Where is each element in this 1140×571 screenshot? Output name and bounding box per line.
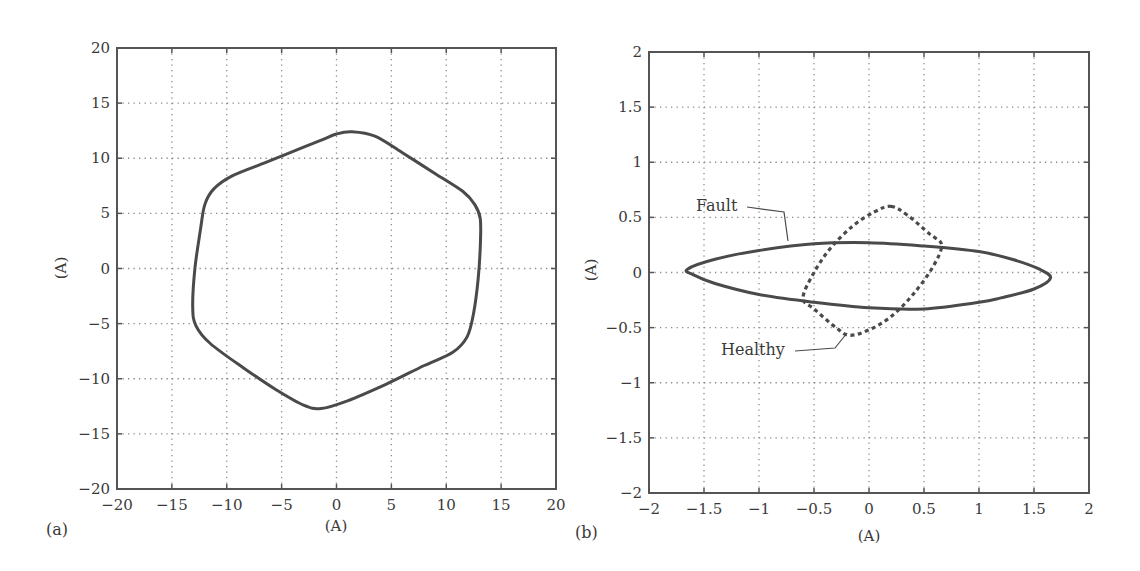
- y-tick-label: 2: [632, 43, 642, 61]
- series-fault: [686, 243, 1050, 310]
- panel-a-ytick-labels: −20−15−10−505101520: [78, 39, 110, 498]
- x-tick-label: 0: [864, 500, 874, 518]
- x-tick-label: −0.5: [796, 500, 832, 518]
- panel-b-xtick-labels: −2−1.5−1−0.500.511.52: [638, 500, 1094, 518]
- x-tick-label: 15: [492, 496, 511, 514]
- panel-a-ylabel: (A): [52, 257, 70, 280]
- y-tick-label: 1: [632, 153, 642, 171]
- y-tick-label: −0.5: [606, 319, 642, 337]
- healthy-annotation-label: Healthy: [721, 340, 785, 359]
- fault-annotation-label: Fault: [696, 196, 738, 215]
- panel-a-xtick-labels: −20−15−10−505101520: [101, 496, 565, 514]
- fault-annotation-leader: [747, 207, 788, 241]
- panel-b-ylabel: (A): [582, 259, 600, 282]
- x-tick-label: −10: [211, 496, 243, 514]
- panel-a-label: (a): [46, 520, 68, 539]
- y-tick-label: −10: [78, 370, 110, 388]
- panel-b-chart: −2−1.5−1−0.500.511.52 −2−1.5−1−0.500.511…: [575, 43, 1094, 545]
- x-tick-label: −20: [101, 496, 133, 514]
- x-tick-label: −1.5: [686, 500, 722, 518]
- panel-a-grid: [117, 48, 556, 489]
- y-tick-label: 0: [100, 260, 110, 278]
- x-tick-label: 10: [437, 496, 456, 514]
- x-tick-label: −15: [156, 496, 188, 514]
- y-tick-label: 0.5: [618, 208, 642, 226]
- x-tick-label: 2: [1084, 500, 1094, 518]
- panel-b-curves: [686, 206, 1050, 335]
- x-tick-label: 20: [546, 496, 565, 514]
- x-tick-label: 0.5: [912, 500, 936, 518]
- healthy-annotation-leader: [795, 333, 847, 351]
- y-tick-label: 15: [91, 94, 110, 112]
- panel-b-grid: [649, 52, 1089, 493]
- y-tick-label: −5: [88, 315, 110, 333]
- y-tick-label: −20: [78, 480, 110, 498]
- panel-b-label: (b): [575, 523, 598, 542]
- series-healthy: [803, 206, 942, 335]
- x-tick-label: −1: [748, 500, 770, 518]
- figure: −20−15−10−505101520 −20−15−10−505101520 …: [0, 0, 1140, 571]
- y-tick-label: 5: [100, 204, 110, 222]
- y-tick-label: −1: [620, 374, 642, 392]
- panel-a-xlabel: (A): [325, 517, 348, 535]
- y-tick-label: 20: [91, 39, 110, 57]
- y-tick-label: −2: [620, 484, 642, 502]
- panel-b-xlabel: (A): [858, 527, 881, 545]
- panel-b-ytick-labels: −2−1.5−1−0.500.511.52: [606, 43, 642, 502]
- x-tick-label: −5: [271, 496, 293, 514]
- x-tick-label: 0: [332, 496, 342, 514]
- x-tick-label: −2: [638, 500, 660, 518]
- panel-a-chart: −20−15−10−505101520 −20−15−10−505101520 …: [46, 39, 566, 539]
- x-tick-label: 5: [387, 496, 397, 514]
- x-tick-label: 1.5: [1022, 500, 1046, 518]
- y-tick-label: 10: [91, 149, 110, 167]
- y-tick-label: −15: [78, 425, 110, 443]
- y-tick-label: 1.5: [618, 98, 642, 116]
- y-tick-label: −1.5: [606, 429, 642, 447]
- y-tick-label: 0: [632, 264, 642, 282]
- x-tick-label: 1: [974, 500, 984, 518]
